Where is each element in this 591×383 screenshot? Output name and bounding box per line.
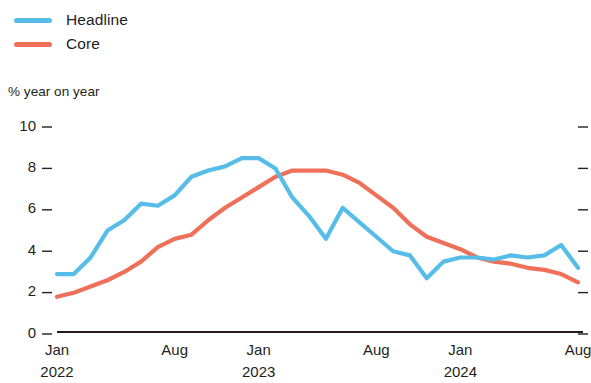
x-tick-label: Aug (363, 341, 390, 358)
y-tick-label: 10 (19, 117, 36, 134)
y-tick-label: 0 (28, 324, 36, 341)
y-tick-label: 4 (28, 241, 36, 258)
x-tick-label: Aug (161, 341, 188, 358)
y-axis-ticks: 0246810 (19, 117, 52, 341)
x-tick-label: Jan (247, 341, 271, 358)
y-tick-label: 6 (28, 199, 36, 216)
x-tick-sublabel: 2023 (242, 363, 275, 380)
x-tick-sublabel: 2024 (444, 363, 477, 380)
y-tick-label: 8 (28, 158, 36, 175)
chart-container: Headline Core % year on year 0246810 Jan… (0, 0, 591, 383)
series-line-core (57, 171, 578, 297)
series-line-headline (57, 158, 578, 278)
x-axis-labels: Jan2022AugJan2023AugJan2024Aug (40, 341, 591, 380)
x-tick-label: Aug (565, 341, 591, 358)
x-tick-label: Jan (45, 341, 69, 358)
plot-area: 0246810 Jan2022AugJan2023AugJan2024Aug (0, 0, 591, 383)
y-tick-label: 2 (28, 282, 36, 299)
x-tick-label: Jan (448, 341, 472, 358)
x-tick-sublabel: 2022 (40, 363, 73, 380)
y-axis-ticks-right (578, 127, 588, 334)
